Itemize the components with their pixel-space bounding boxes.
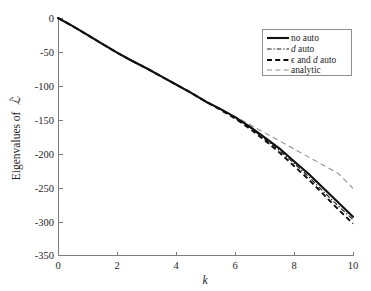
legend-label-eps-post: auto: [318, 55, 337, 65]
y-tick-label: -350: [35, 250, 54, 261]
y-axis-label-text: Eigenvalues of: [10, 111, 23, 180]
legend-label-eps-pre: ϵ and: [291, 55, 313, 65]
y-tick-label: -100: [35, 81, 54, 92]
x-tick-label: 6: [232, 260, 237, 271]
legend-label-d-auto: d auto: [291, 44, 314, 54]
y-tick-label: -200: [35, 149, 54, 160]
y-tick-label: -50: [40, 47, 54, 58]
figure-canvas: 0 -50 -100 -150 -200 -250 -300 -350 0 2 …: [0, 0, 371, 291]
y-tick-label: -150: [35, 115, 54, 126]
y-tick-label: -300: [35, 217, 54, 228]
eigenvalue-line-chart: 0 -50 -100 -150 -200 -250 -300 -350 0 2 …: [0, 0, 371, 291]
x-tick-label: 0: [55, 260, 60, 271]
x-tick-label: 10: [348, 260, 359, 271]
legend: no auto d auto ϵ and d auto analytic: [263, 30, 352, 76]
legend-label-d-auto-post: auto: [296, 44, 315, 54]
x-axis-ticks: [59, 252, 354, 256]
x-tick-label: 2: [114, 260, 119, 271]
legend-label-analytic: analytic: [291, 65, 321, 75]
y-axis-label: Eigenvalues of ℒ ̂: [9, 94, 23, 180]
legend-label-no-auto: no auto: [291, 33, 319, 43]
x-tick-label: 4: [173, 260, 179, 271]
x-tick-label: 8: [291, 260, 296, 271]
y-axis-ticks: [59, 19, 63, 256]
y-tick-label: 0: [49, 13, 54, 24]
svg-text:Eigenvalues of ℒ: Eigenvalues of ℒ ̂: [9, 94, 23, 180]
y-tick-label: -250: [35, 183, 54, 194]
x-axis-label: k: [202, 274, 208, 286]
legend-label-eps-and-d-auto: ϵ and d auto: [291, 55, 337, 65]
